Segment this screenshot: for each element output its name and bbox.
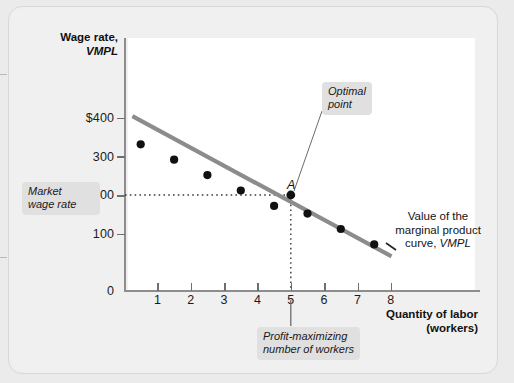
y-axis-label-100: 100 [44, 227, 114, 241]
x-axis-tick-6 [324, 283, 326, 291]
y-axis-label-0: 0 [44, 284, 114, 298]
vmpl-note-italic: VMPL [440, 237, 471, 249]
x-axis-tick-3 [224, 283, 226, 291]
y-axis-tick-300 [117, 156, 125, 158]
x-axis-line [124, 290, 480, 292]
x-axis-title-line1: Quantity of labor [386, 308, 478, 320]
plot-area [128, 38, 475, 290]
x-axis-tick-8 [391, 283, 393, 291]
vmpl-note-line3: curve, [405, 237, 436, 249]
x-axis-tick-4 [257, 283, 259, 291]
x-axis-tick-5 [291, 283, 293, 291]
y-axis-line [124, 38, 126, 291]
callout-profit-maximizing: Profit-maximizing number of workers [257, 327, 360, 360]
y-axis-label-400: $400 [44, 111, 114, 125]
gutter-tick-mark [0, 257, 7, 258]
x-axis-tick-2 [191, 283, 193, 291]
gutter-tick-mark [0, 74, 7, 75]
y-axis-tick-200 [117, 195, 125, 197]
x-axis-label-5: 5 [278, 293, 304, 307]
x-axis-label-7: 7 [345, 293, 371, 307]
x-axis-title-line2: (workers) [426, 322, 478, 334]
y-axis-tick-400 [117, 118, 125, 120]
callout-market-wage-rate: Market wage rate [22, 182, 100, 215]
x-axis-label-8: 8 [378, 293, 404, 307]
x-axis-label-1: 1 [144, 293, 170, 307]
x-axis-label-4: 4 [244, 293, 270, 307]
vmpl-curve-note: Value of the marginal product curve, VMP… [388, 210, 488, 251]
y-axis-title-line2: VMPL [86, 45, 118, 57]
y-axis-tick-100 [117, 234, 125, 236]
callout-optimal-point: Optimal point [322, 82, 372, 115]
x-axis-tick-1 [157, 283, 159, 291]
y-axis-title-line1: Wage rate, [60, 31, 118, 43]
x-axis-label-3: 3 [211, 293, 237, 307]
y-axis-title: Wage rate, VMPL [48, 31, 118, 58]
y-axis-label-300: 300 [44, 150, 114, 164]
vmpl-note-line1: Value of the [408, 210, 469, 222]
x-axis-label-2: 2 [178, 293, 204, 307]
vmpl-note-line2: marginal product [395, 224, 481, 236]
point-a-label: A [287, 178, 295, 192]
x-axis-tick-7 [358, 283, 360, 291]
x-axis-label-6: 6 [311, 293, 337, 307]
